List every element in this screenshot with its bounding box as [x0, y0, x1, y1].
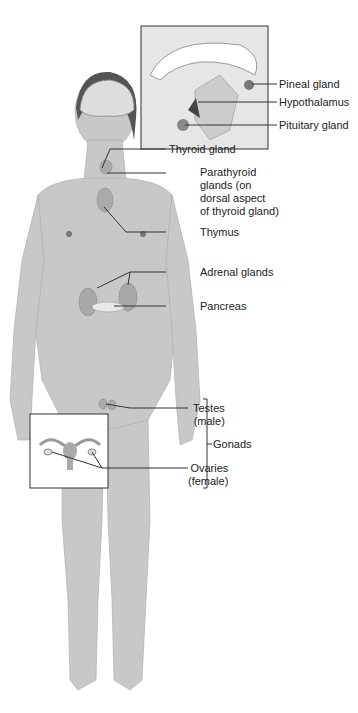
label-adrenal-glands: Adrenal glands [200, 266, 273, 279]
ovary-inset [30, 414, 108, 488]
brain-inset [141, 26, 268, 149]
label-pancreas: Pancreas [200, 300, 246, 313]
kidney-left [79, 288, 97, 316]
label-ovaries: Ovaries (female) [188, 462, 228, 488]
label-hypothalamus: Hypothalamus [279, 96, 349, 109]
label-testes: Testes (male) [193, 402, 225, 428]
label-parathyroid-glands: Parathyroid glands (on dorsal aspect of … [200, 166, 279, 218]
label-gonads: Gonads [213, 438, 252, 451]
label-thymus: Thymus [200, 226, 239, 239]
thyroid-gland [100, 160, 112, 174]
label-pineal-gland: Pineal gland [279, 78, 340, 91]
label-thyroid-gland: Thyroid gland [169, 143, 236, 156]
pancreas [92, 302, 124, 312]
testes [99, 399, 107, 409]
label-pituitary-gland: Pituitary gland [279, 119, 349, 132]
